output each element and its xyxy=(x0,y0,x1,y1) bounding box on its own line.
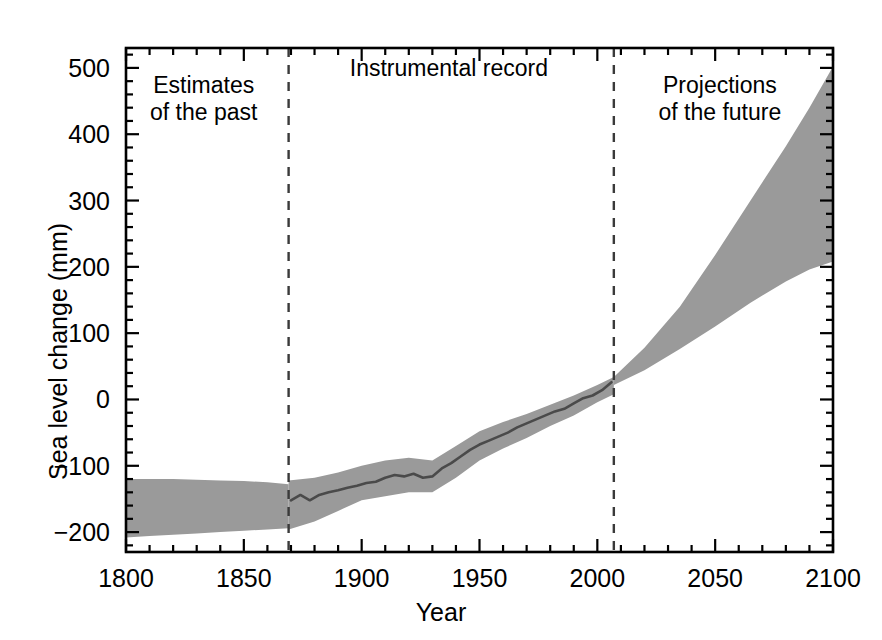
y-tick-label: 300 xyxy=(0,186,110,215)
data-bands-layer xyxy=(126,67,833,538)
y-tick-label: 100 xyxy=(0,319,110,348)
y-tick-label: −200 xyxy=(0,518,110,547)
estimates-of-the-past: Estimates of the past xyxy=(94,72,314,126)
sea-level-change-figure: Sea level change (mm) Year −200−10001002… xyxy=(0,0,882,640)
x-tick-label: 1850 xyxy=(216,564,272,593)
x-tick-label: 2050 xyxy=(687,564,743,593)
x-tick-label: 1900 xyxy=(334,564,390,593)
y-tick-label: 200 xyxy=(0,252,110,281)
y-tick-label: 0 xyxy=(0,385,110,414)
y-tick-label: −100 xyxy=(0,451,110,480)
x-tick-label: 1950 xyxy=(452,564,508,593)
x-axis-title: Year xyxy=(0,598,882,627)
band-series-0 xyxy=(126,479,289,537)
x-tick-label: 1800 xyxy=(98,564,154,593)
x-tick-label: 2000 xyxy=(570,564,626,593)
band-series-1 xyxy=(289,377,614,530)
projections-of-the-future: Projections of the future xyxy=(610,72,830,126)
x-tick-label: 2100 xyxy=(805,564,861,593)
instrumental-record: Instrumental record xyxy=(339,55,559,82)
